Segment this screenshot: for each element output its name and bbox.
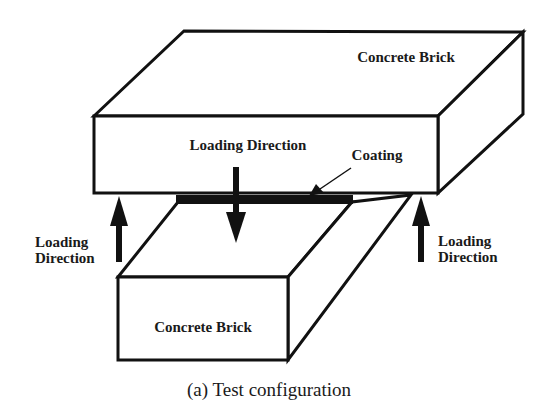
arrow-up-shaft [418,224,424,262]
left-loading-label-line1: Loading [35,234,89,250]
coating-label: Coating [352,147,403,163]
left-loading-arrow: Loading Direction [35,196,128,266]
right-loading-label-line2: Direction [438,249,498,265]
test-configuration-figure: Concrete Brick Concrete Brick Coating Lo… [0,0,551,411]
arrow-down-shaft [233,167,239,214]
right-loading-label-line1: Loading [438,233,492,249]
upper-brick-label: Concrete Brick [357,49,455,65]
upper-brick: Concrete Brick [94,31,523,193]
coating-layer [176,195,353,204]
lower-brick: Concrete Brick [118,195,411,360]
right-loading-arrow: Loading Direction [412,196,498,265]
arrow-up-icon [412,196,430,226]
figure-caption: (a) Test configuration [187,379,351,401]
left-loading-label-line2: Direction [35,250,95,266]
arrow-up-icon [110,196,128,226]
center-loading-label: Loading Direction [190,137,307,153]
lower-brick-label: Concrete Brick [154,319,252,335]
arrow-up-shaft [116,224,122,262]
